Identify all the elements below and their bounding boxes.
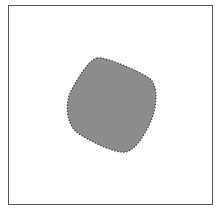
caption — [0, 207, 218, 215]
blob-shape — [9, 6, 214, 206]
image-frame — [8, 5, 213, 205]
